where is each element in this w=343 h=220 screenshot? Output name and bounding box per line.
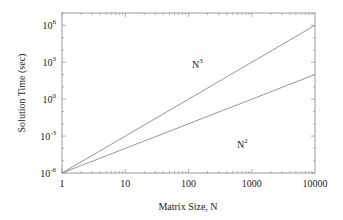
x-tick-label: 10: [120, 178, 130, 189]
x-tick-labels: 110100100010000: [60, 178, 328, 189]
annotation-n-cubed: N3: [192, 57, 203, 70]
series-line-n-squared: [62, 75, 315, 174]
plot-frame: [62, 13, 315, 173]
y-tick-label: 103: [43, 55, 57, 68]
x-axis-label: Matrix Size, N: [158, 201, 217, 212]
x-tick-label: 1000: [242, 178, 262, 189]
y-tick-label: 10-6: [40, 166, 56, 179]
y-tick-label: 10-3: [40, 129, 56, 142]
plot-border: [62, 13, 315, 173]
axis-ticks: [62, 13, 315, 173]
y-tick-label: 100: [43, 92, 57, 105]
data-series: [62, 25, 315, 173]
y-tick-labels: 10610310010-310-6: [40, 18, 56, 179]
y-axis-label: Solution Time (sec): [16, 54, 28, 133]
annotation-n-squared: N2: [237, 137, 248, 150]
y-tick-label: 106: [43, 18, 57, 31]
chart: 110100100010000 10610310010-310-6 Matrix…: [0, 0, 343, 220]
series-line-n-cubed: [62, 25, 315, 173]
x-tick-label: 10000: [303, 178, 328, 189]
x-tick-label: 1: [60, 178, 65, 189]
x-tick-label: 100: [181, 178, 196, 189]
